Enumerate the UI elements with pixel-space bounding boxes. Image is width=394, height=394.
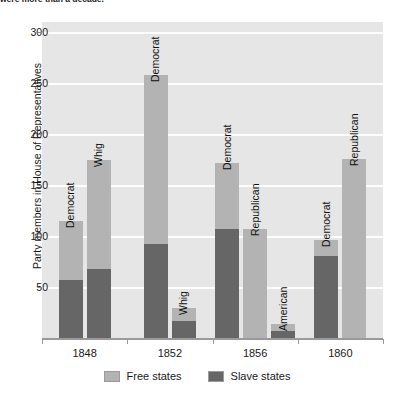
y-tick-mark-100	[38, 236, 42, 237]
gridline-300	[42, 32, 383, 34]
x-tick-mark-1	[127, 339, 128, 344]
segment-slave-states	[144, 244, 168, 338]
bar-label-1848-whig: Whig	[93, 143, 104, 167]
y-tick-mark-300	[38, 32, 42, 33]
y-tick-mark-150	[38, 185, 42, 186]
segment-slave-states	[87, 269, 111, 338]
y-tick-mark-50	[38, 287, 42, 288]
y-tick-label-200: 200	[14, 129, 48, 139]
bar-1852-democrat	[144, 75, 168, 338]
segment-slave-states	[215, 229, 239, 338]
bar-label-1856-american: American	[278, 286, 289, 330]
segment-free-states	[342, 159, 366, 338]
x-tick-label-1856: 1856	[220, 347, 290, 359]
bar-1848-democrat	[59, 221, 83, 338]
segment-free-states	[144, 75, 168, 244]
bar-label-1860-republican: Republican	[349, 113, 360, 166]
bar-1856-democrat	[215, 163, 239, 338]
bar-label-1856-republican: Republican	[250, 183, 261, 236]
segment-slave-states	[314, 256, 338, 338]
segment-slave-states	[172, 321, 196, 338]
legend-swatch-icon	[208, 371, 224, 382]
bar-label-1860-democrat: Democrat	[321, 202, 332, 248]
y-tick-mark-200	[38, 134, 42, 135]
chart-legend: Free statesSlave states	[0, 370, 394, 382]
segment-free-states	[59, 221, 83, 280]
x-tick-label-1848: 1848	[50, 347, 120, 359]
x-tick-mark-0	[42, 339, 43, 344]
bar-1860-republican	[342, 159, 366, 338]
bar-label-1848-democrat: Democrat	[65, 182, 76, 228]
y-tick-label-50: 50	[14, 282, 48, 292]
bar-1856-republican	[243, 229, 267, 338]
gridline-200	[42, 134, 383, 136]
legend-item-free-states: Free states	[104, 370, 182, 382]
segment-free-states	[87, 160, 111, 269]
x-tick-label-1860: 1860	[305, 347, 375, 359]
segment-slave-states	[271, 331, 295, 338]
x-tick-mark-4	[383, 339, 384, 344]
legend-item-slave-states: Slave states	[208, 370, 291, 382]
x-tick-label-1852: 1852	[135, 347, 205, 359]
legend-label: Free states	[127, 370, 182, 382]
bar-1848-whig	[87, 160, 111, 338]
y-tick-label-150: 150	[14, 180, 48, 190]
segment-free-states	[215, 163, 239, 229]
gridline-250	[42, 83, 383, 85]
legend-label: Slave states	[231, 370, 291, 382]
y-tick-label-300: 300	[14, 27, 48, 37]
segment-slave-states	[59, 280, 83, 338]
y-tick-label-100: 100	[14, 231, 48, 241]
bar-label-1852-whig: Whig	[178, 292, 189, 316]
bar-label-1852-democrat: Democrat	[150, 36, 161, 82]
x-tick-mark-3	[298, 339, 299, 344]
segment-free-states	[243, 229, 267, 338]
x-tick-mark-2	[213, 339, 214, 344]
y-tick-mark-250	[38, 83, 42, 84]
bar-chart-figure: Party members in House of Representative…	[0, 0, 394, 394]
bar-1860-democrat	[314, 240, 338, 338]
y-tick-label-250: 250	[14, 78, 48, 88]
bar-label-1856-democrat: Democrat	[222, 124, 233, 170]
legend-swatch-icon	[104, 371, 120, 382]
